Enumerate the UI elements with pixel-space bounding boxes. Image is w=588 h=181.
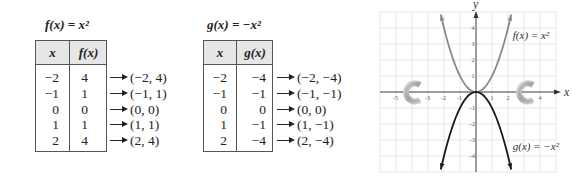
y-value: 0 bbox=[81, 102, 88, 118]
y-tick-label: 3 bbox=[472, 41, 475, 47]
x-axis-arrow-icon bbox=[554, 90, 561, 95]
arrow-right-icon bbox=[277, 109, 289, 110]
y-value: −1 bbox=[252, 117, 266, 133]
x-value: −2 bbox=[45, 70, 59, 86]
c-shape-icon bbox=[519, 84, 533, 102]
x-tick-label: -3 bbox=[425, 95, 430, 101]
arrow-right-icon bbox=[110, 124, 122, 125]
header-fx: f(x) bbox=[70, 41, 107, 64]
x-tick-label: -2 bbox=[441, 95, 446, 101]
x-value: −2 bbox=[213, 70, 227, 86]
x-value: 1 bbox=[220, 117, 227, 133]
x-tick-label: 2 bbox=[507, 95, 510, 101]
y-value: −1 bbox=[252, 86, 266, 102]
ordered-pair: (−1, 1) bbox=[130, 86, 167, 102]
y-value: 4 bbox=[81, 70, 88, 86]
ordered-pair: (2, −4) bbox=[297, 133, 334, 149]
y-tick-label: 2 bbox=[472, 57, 475, 63]
ordered-pair: (2, 4) bbox=[130, 133, 159, 149]
y-tick-label: -4 bbox=[470, 153, 475, 159]
arrow-right-icon bbox=[110, 109, 122, 110]
y-value: 4 bbox=[81, 133, 88, 149]
ordered-pair: (−2, −4) bbox=[297, 70, 341, 86]
header-x: x bbox=[36, 41, 69, 64]
header-gx: g(x) bbox=[237, 41, 273, 64]
y-tick-label: -1 bbox=[470, 105, 475, 111]
x-value: 1 bbox=[52, 117, 59, 133]
arrow-right-icon bbox=[277, 93, 289, 94]
header-x: x bbox=[204, 41, 236, 64]
table-title-f: f(x) = x² bbox=[45, 17, 89, 33]
arrow-right-icon bbox=[110, 93, 122, 94]
y-value: 1 bbox=[81, 117, 88, 133]
ordered-pair: (0, 0) bbox=[297, 102, 326, 118]
function-graph: xy -5-3-2-11244321-1-2-3-4 f(x) = x²g(x)… bbox=[370, 0, 588, 181]
table-title-g: g(x) = −x² bbox=[207, 17, 261, 33]
ordered-pair: (1, −1) bbox=[297, 117, 334, 133]
x-value: −1 bbox=[45, 86, 59, 102]
curve-label-g: g(x) = −x² bbox=[513, 140, 560, 153]
arrow-right-icon bbox=[110, 140, 122, 141]
x-value: 0 bbox=[220, 102, 227, 118]
x-tick-label: -5 bbox=[393, 95, 398, 101]
y-axis-label: y bbox=[472, 0, 479, 11]
y-tick-label: -2 bbox=[470, 121, 475, 127]
x-tick-label: 1 bbox=[491, 95, 494, 101]
y-value: 0 bbox=[259, 102, 266, 118]
ordered-pair: (0, 0) bbox=[130, 102, 159, 118]
x-tick-label: -1 bbox=[457, 95, 462, 101]
arrow-right-icon bbox=[277, 140, 289, 141]
y-value: −4 bbox=[252, 70, 266, 86]
ordered-pair: (−2, 4) bbox=[130, 70, 167, 86]
curve-label-f: f(x) = x² bbox=[513, 29, 550, 42]
arrow-right-icon bbox=[110, 77, 122, 78]
x-value: 0 bbox=[52, 102, 59, 118]
arrow-right-icon bbox=[277, 124, 289, 125]
c-shape-icon bbox=[406, 84, 420, 102]
y-value: 1 bbox=[81, 86, 88, 102]
x-value: 2 bbox=[52, 133, 59, 149]
ordered-pair: (1, 1) bbox=[130, 117, 159, 133]
y-tick-label: 4 bbox=[472, 25, 475, 31]
x-axis-label: x bbox=[563, 85, 570, 99]
x-tick-label: 4 bbox=[539, 95, 542, 101]
y-value: −4 bbox=[252, 133, 266, 149]
x-value: 2 bbox=[220, 133, 227, 149]
ordered-pair: (−1, −1) bbox=[297, 86, 341, 102]
arrow-right-icon bbox=[277, 77, 289, 78]
y-tick-label: -3 bbox=[470, 137, 475, 143]
y-tick-label: 1 bbox=[472, 73, 475, 79]
x-value: −1 bbox=[213, 86, 227, 102]
